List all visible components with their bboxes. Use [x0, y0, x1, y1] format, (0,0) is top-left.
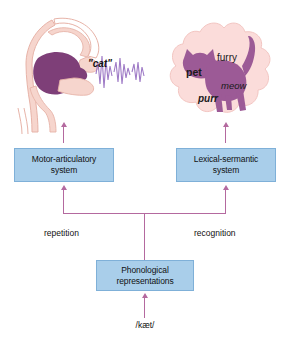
- lexical-semantic-system-box[interactable]: Lexical-sermantic system: [176, 148, 276, 182]
- figure-canvas: "cat" furry pet meow purr: [0, 0, 291, 342]
- phono-box-line1: Phonological: [121, 265, 168, 276]
- lexical-box-line2: system: [213, 165, 239, 176]
- phono-box-line2: representations: [116, 276, 173, 287]
- motor-articulatory-system-box[interactable]: Motor-articulatory system: [14, 148, 114, 182]
- cloud-word-furry: furry: [217, 52, 237, 63]
- pathway-label-repetition: repetition: [44, 228, 79, 238]
- motor-box-line1: Motor-articulatory: [32, 154, 96, 165]
- vocal-tract-icon: [8, 12, 148, 140]
- arrow-shaft-motor-to-tract: [63, 127, 64, 143]
- arrow-up-icon: [142, 293, 148, 298]
- phonetic-input-label: /kæt/: [115, 320, 175, 330]
- pathway-label-recognition: recognition: [194, 228, 236, 238]
- arrow-up-icon: [223, 185, 229, 190]
- cloud-word-pet: pet: [186, 66, 202, 78]
- lexical-box-line1: Lexical-sermantic: [194, 154, 258, 165]
- arrow-up-icon: [223, 122, 229, 127]
- connector-center-stem: [144, 213, 145, 261]
- cloud-word-meow: meow: [221, 80, 246, 91]
- phonological-representations-box[interactable]: Phonological representations: [96, 260, 194, 291]
- input-arrow-shaft: [144, 298, 145, 318]
- arrow-up-icon: [61, 122, 67, 127]
- arrow-up-icon: [61, 185, 67, 190]
- motor-box-line2: system: [51, 165, 77, 176]
- arrow-shaft-lexical-to-cloud: [225, 127, 226, 143]
- connector-right-riser: [225, 190, 226, 214]
- connector-left-riser: [63, 190, 64, 214]
- thought-cloud-icon: [160, 18, 285, 138]
- cloud-word-purr: purr: [198, 93, 218, 104]
- spoken-word-label: "cat": [88, 58, 112, 69]
